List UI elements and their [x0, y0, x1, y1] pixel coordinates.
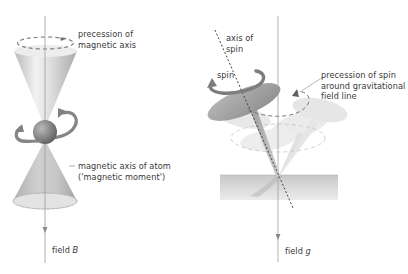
gravitational-precession-line2: around gravitational	[321, 81, 405, 92]
spin-arrow-head-icon	[15, 124, 24, 132]
gravitational-precession-line3: field line	[321, 91, 405, 102]
magnetic-axis-label: magnetic axis of atom ('magnetic moment'…	[78, 161, 171, 182]
field-symbol-b: B	[73, 245, 79, 255]
precession-label-line2: magnetic axis	[78, 40, 136, 51]
precession-label: precession of magnetic axis	[78, 29, 136, 50]
field-arrow-icon	[276, 234, 281, 240]
field-symbol-g: g	[306, 246, 311, 256]
spin-axis-label-line1: axis of	[226, 33, 253, 44]
gravitational-precession-label: precession of spin around gravitational …	[321, 70, 405, 102]
gyroscope-precession-diagram	[203, 16, 350, 262]
field-g-label: field g	[285, 246, 311, 257]
field-label-prefix: field	[285, 246, 306, 256]
spin-axis-label-line2: spin	[226, 44, 253, 55]
upper-precession-cone	[14, 45, 77, 128]
field-b-label: field B	[52, 245, 78, 256]
leader-line	[300, 77, 323, 92]
gravitational-precession-line1: precession of spin	[321, 70, 405, 81]
spin-arrow-head-icon	[207, 78, 217, 88]
field-label-prefix: field	[52, 245, 73, 255]
magnetic-axis-label-line1: magnetic axis of atom	[78, 161, 171, 172]
precession-arrow-head-icon	[292, 89, 299, 97]
spin-label: spin	[217, 70, 234, 81]
precession-label-line1: precession of	[78, 29, 136, 40]
spin-axis-label: axis of spin	[226, 33, 253, 54]
magnetic-precession-diagram	[13, 16, 77, 263]
diagram-canvas	[0, 0, 408, 274]
field-arrow-icon	[43, 227, 48, 233]
magnetic-axis-label-line2: ('magnetic moment')	[78, 172, 171, 183]
